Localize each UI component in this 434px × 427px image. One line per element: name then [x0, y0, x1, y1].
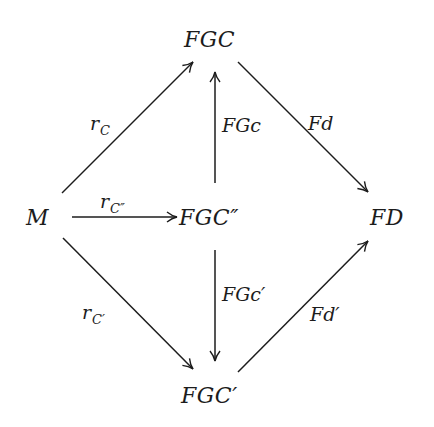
label-r-c-prime: rC′ — [82, 303, 105, 322]
label-fgc-small: FGc — [222, 116, 261, 135]
label-fd: Fd — [308, 114, 333, 133]
node-fgc-double-prime: FGC″ — [179, 207, 239, 229]
node-m: M — [26, 207, 49, 229]
label-r-c-prime-main: r — [82, 301, 91, 323]
label-fd-prime: Fd′ — [310, 305, 340, 324]
label-r-c-prime-sub: C′ — [92, 312, 105, 327]
node-fgc-top: FGC — [184, 29, 235, 51]
arrow-m-to-fgc — [62, 62, 193, 193]
node-fgc-prime-bottom: FGC′ — [181, 385, 238, 407]
label-r-c-double-prime-sub: C″ — [110, 201, 125, 216]
label-r-c-sub: C — [100, 123, 110, 138]
label-r-c-double-prime: rC″ — [100, 192, 125, 211]
node-fd: FD — [370, 207, 404, 229]
commutative-diagram: FGC M FGC″ FD FGC′ rC rC″ rC′ FGc FGc′ F… — [0, 0, 434, 427]
arrow-fgc-prime-to-fd — [238, 241, 368, 372]
label-r-c-double-prime-main: r — [100, 190, 109, 212]
label-r-c: rC — [90, 114, 110, 133]
label-fgc-small-prime: FGc′ — [222, 285, 265, 304]
label-r-c-main: r — [90, 112, 99, 134]
